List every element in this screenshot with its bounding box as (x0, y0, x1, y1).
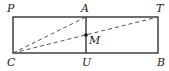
segment-ca-dashed (13, 17, 86, 53)
label-m: M (88, 34, 101, 47)
label-a: A (80, 2, 89, 15)
geometry-diagram: P A T C U B M (0, 0, 169, 71)
label-b: B (156, 56, 165, 69)
point-m (84, 33, 88, 37)
label-u: U (82, 56, 92, 69)
label-p: P (6, 2, 15, 15)
label-c: C (7, 56, 16, 69)
label-t: T (156, 2, 165, 15)
